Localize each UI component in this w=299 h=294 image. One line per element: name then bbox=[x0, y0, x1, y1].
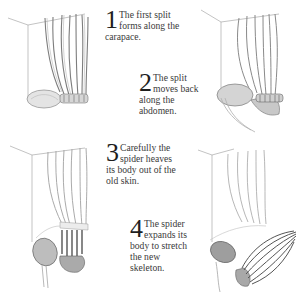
illustration-stage-1 bbox=[0, 0, 100, 120]
step-3-number: 3 bbox=[106, 143, 119, 163]
step-2-number: 2 bbox=[139, 73, 152, 93]
illustration-stage-4 bbox=[196, 142, 299, 294]
step-1-number: 1 bbox=[105, 10, 118, 30]
illustration-stage-2 bbox=[199, 0, 299, 140]
illustration-stage-3 bbox=[0, 142, 100, 294]
step-4: 4 The spider expands its body to stretch… bbox=[130, 218, 196, 273]
step-3: 3 Carefully the spider heaves its body o… bbox=[106, 142, 176, 186]
step-4-number: 4 bbox=[130, 219, 143, 239]
step-2: 2 The split moves back along the abdomen… bbox=[139, 72, 203, 116]
step-1: 1 The first split forms along the carapa… bbox=[105, 9, 185, 42]
